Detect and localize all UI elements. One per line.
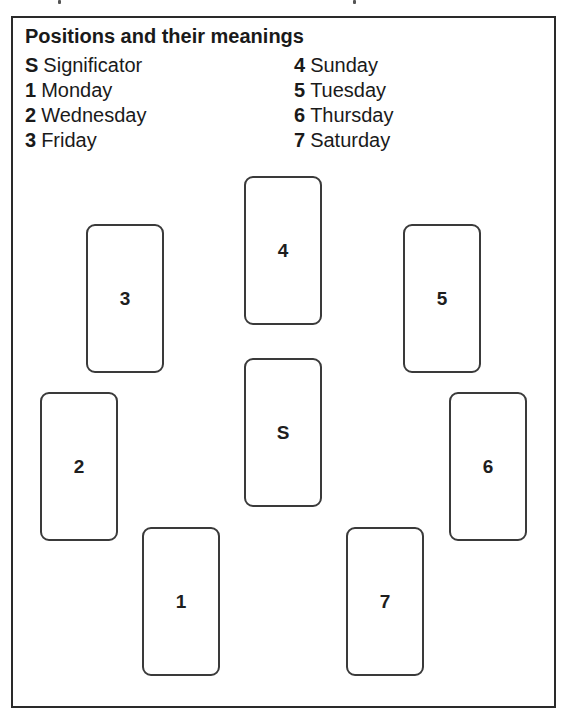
legend-key: 4 (294, 54, 305, 76)
card-position-significator: S (244, 358, 322, 507)
legend-key: S (25, 54, 38, 76)
card-position-4: 4 (244, 176, 322, 325)
legend-key: 7 (294, 129, 305, 151)
card-label: 7 (380, 591, 391, 613)
card-label: 3 (120, 288, 131, 310)
legend-meaning: Wednesday (41, 104, 146, 126)
legend-column-right: 4Sunday 5Tuesday 6Thursday 7Saturday (294, 53, 394, 153)
legend-key: 1 (25, 79, 36, 101)
card-label: 1 (176, 591, 187, 613)
legend-key: 2 (25, 104, 36, 126)
legend-item-4: 4Sunday (294, 53, 394, 78)
legend-meaning: Sunday (310, 54, 378, 76)
card-position-7: 7 (346, 527, 424, 676)
card-label: 5 (437, 288, 448, 310)
card-label: 4 (278, 240, 289, 262)
legend-key: 5 (294, 79, 305, 101)
legend-item-5: 5Tuesday (294, 78, 394, 103)
card-position-3: 3 (86, 224, 164, 373)
card-label: S (277, 422, 290, 444)
legend-item-3: 3Friday (25, 128, 146, 153)
legend-meaning: Thursday (310, 104, 393, 126)
card-label: 6 (483, 456, 494, 478)
legend-item-7: 7Saturday (294, 128, 394, 153)
legend-meaning: Monday (41, 79, 112, 101)
card-position-5: 5 (403, 224, 481, 373)
legend-item-6: 6Thursday (294, 103, 394, 128)
legend-item-1: 1Monday (25, 78, 146, 103)
legend-meaning: Saturday (310, 129, 390, 151)
card-position-2: 2 (40, 392, 118, 541)
cropped-text-remnant (0, 0, 566, 4)
legend-item-significator: SSignificator (25, 53, 146, 78)
legend-meaning: Tuesday (310, 79, 386, 101)
legend-meaning: Friday (41, 129, 97, 151)
legend-key: 3 (25, 129, 36, 151)
legend-item-2: 2Wednesday (25, 103, 146, 128)
legend-title: Positions and their meanings (25, 25, 304, 48)
diagram-frame: Positions and their meanings SSignificat… (11, 16, 556, 708)
card-position-6: 6 (449, 392, 527, 541)
card-label: 2 (74, 456, 85, 478)
legend-key: 6 (294, 104, 305, 126)
legend-column-left: SSignificator 1Monday 2Wednesday 3Friday (25, 53, 146, 153)
legend-meaning: Significator (43, 54, 142, 76)
card-position-1: 1 (142, 527, 220, 676)
